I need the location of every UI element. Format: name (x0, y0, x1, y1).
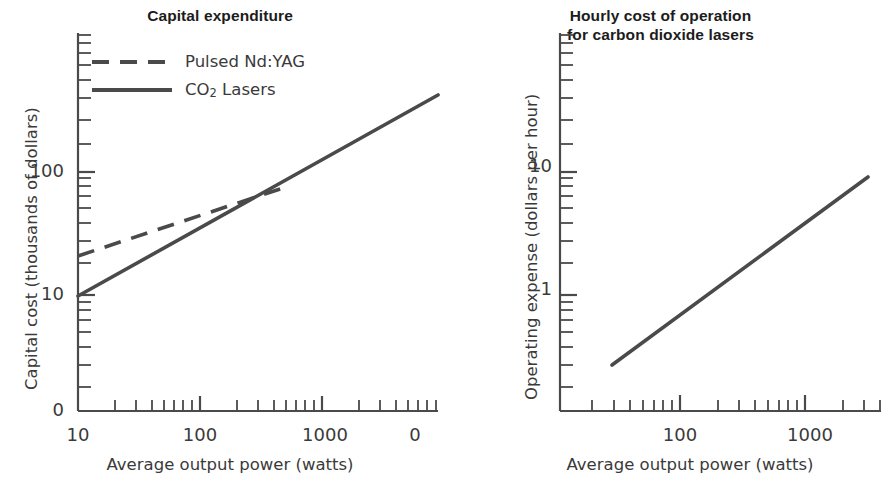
chart-graphics-left (0, 0, 440, 488)
chart-panel-hourly-operating-cost: Hourly cost of operation for carbon diox… (440, 0, 881, 488)
figure-canvas: Capital expenditure Capital cost (thousa… (0, 0, 881, 488)
series-line-co2-lasers (78, 95, 438, 296)
y-axis-ticks-right (560, 35, 577, 387)
chart-panel-capital-expenditure: Capital expenditure Capital cost (thousa… (0, 0, 440, 488)
series-line-carbon-dioxide-lasers (612, 177, 868, 365)
axis-lines-right (560, 33, 881, 411)
chart-graphics-right (440, 0, 881, 488)
y-axis-ticks-left (78, 35, 95, 387)
x-axis-ticks-left (115, 396, 436, 411)
x-axis-ticks-right (592, 395, 880, 411)
series-line-pulsed-ndyag (78, 188, 283, 256)
